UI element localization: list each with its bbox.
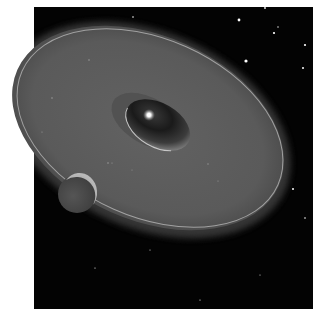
illustration: Artist illustration of a protoplanetary …	[0, 0, 318, 311]
protoplanetary-disk-illustration	[0, 0, 318, 311]
